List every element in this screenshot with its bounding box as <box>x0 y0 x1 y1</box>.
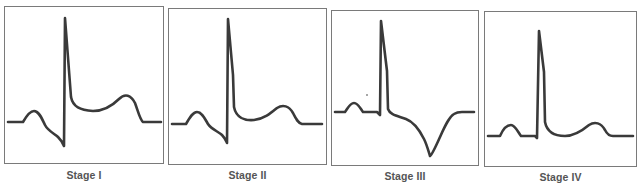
ecg-waveform-stage-3 <box>332 11 480 167</box>
ecg-panel-stage-4 <box>484 11 637 167</box>
ecg-waveform-stage-1 <box>5 7 165 165</box>
ecg-waveform-stage-4 <box>485 12 638 168</box>
stage-2-label: Stage II <box>168 169 327 181</box>
ecg-waveform-stage-2 <box>169 9 328 166</box>
ecg-panel-stage-3 <box>331 10 479 166</box>
stage-1-label: Stage I <box>4 169 164 181</box>
artifact-dot <box>366 94 368 96</box>
ecg-panel-stage-1 <box>4 6 164 164</box>
ecg-panel-stage-2 <box>168 8 327 165</box>
stage-4-label: Stage IV <box>484 171 637 183</box>
stage-3-label: Stage III <box>331 170 479 182</box>
